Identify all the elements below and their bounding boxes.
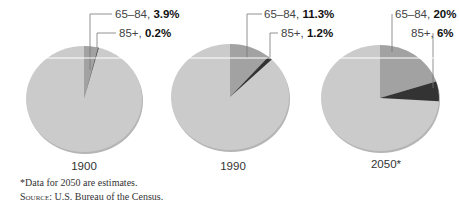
- pie-1990: [171, 44, 290, 152]
- year-1900: 1900: [71, 160, 97, 172]
- source-label: Source:: [20, 191, 52, 202]
- label-1900-85plus: 85+, 0.2%: [119, 27, 171, 39]
- year-2050: 2050*: [371, 158, 402, 170]
- pie-2050: [321, 45, 440, 153]
- label-1990-85plus: 85+, 1.2%: [281, 27, 333, 39]
- label-2050-65-84: 65–84, 20%: [395, 8, 456, 20]
- pie-1900: [26, 46, 143, 154]
- footnote: *Data for 2050 are estimates.: [20, 177, 137, 188]
- source-text: U.S. Bureau of the Census.: [52, 191, 163, 202]
- label-1900-65-84: 65–84, 3.9%: [115, 8, 180, 20]
- year-1990: 1990: [220, 160, 246, 172]
- source-line: Source: U.S. Bureau of the Census.: [20, 191, 163, 202]
- label-1990-65-84: 65–84, 11.3%: [264, 8, 334, 20]
- label-2050-85plus: 85+, 6%: [411, 27, 454, 39]
